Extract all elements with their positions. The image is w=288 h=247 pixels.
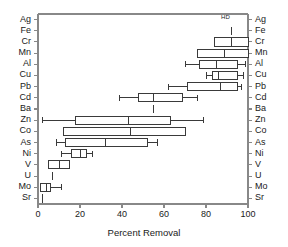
category-label-left-Pb: Pb	[0, 82, 31, 91]
category-label-right-As: As	[255, 138, 266, 147]
category-label-right-Cu: Cu	[255, 70, 267, 79]
box-Cu	[206, 71, 244, 79]
category-label-right-Pb: Pb	[255, 82, 266, 91]
category-label-left-Cu: Cu	[0, 70, 31, 79]
category-label-left-Mo: Mo	[0, 182, 31, 191]
category-label-right-U: U	[255, 171, 262, 180]
category-label-left-As: As	[0, 138, 31, 147]
category-label-right-Cr: Cr	[255, 37, 265, 46]
category-label-right-Sr: Sr	[255, 193, 264, 202]
category-label-right-V: V	[255, 160, 261, 169]
x-tick-label-40: 40	[107, 210, 137, 219]
box-Zn	[42, 116, 204, 124]
box-Mo	[40, 183, 61, 191]
category-label-right-Mo: Mo	[255, 182, 268, 191]
box-V	[49, 161, 70, 169]
hd-annotation: HD	[221, 14, 230, 20]
category-label-right-Fe: Fe	[255, 26, 266, 35]
box-Ni	[61, 150, 93, 158]
x-tick-label-100: 100	[233, 210, 263, 219]
category-label-left-Cr: Cr	[0, 37, 31, 46]
category-label-right-Mn: Mn	[255, 48, 268, 57]
category-label-left-Co: Co	[0, 126, 31, 135]
box-Al	[185, 60, 246, 68]
x-tick-label-0: 0	[23, 210, 53, 219]
category-label-left-Mn: Mn	[0, 48, 31, 57]
category-label-right-Cd: Cd	[255, 93, 267, 102]
category-label-right-Ni: Ni	[255, 149, 264, 158]
category-label-left-Zn: Zn	[0, 115, 31, 124]
box-plot-figure: AgFeCrMnAlCuPbCdBaZnCoAsNiVUMoSr AgFeCrM…	[0, 0, 288, 247]
category-label-right-Co: Co	[255, 126, 267, 135]
box-Co	[63, 127, 185, 135]
box-Cd	[120, 94, 198, 102]
category-label-left-V: V	[0, 160, 31, 169]
category-label-left-Sr: Sr	[0, 193, 31, 202]
box-Cr	[214, 38, 248, 46]
x-tick-label-80: 80	[191, 210, 221, 219]
category-label-left-Ba: Ba	[0, 104, 31, 113]
category-label-right-Ag: Ag	[255, 15, 266, 24]
box-Mn	[198, 49, 248, 57]
category-label-left-Fe: Fe	[0, 26, 31, 35]
category-label-left-Ni: Ni	[0, 149, 31, 158]
x-tick-label-20: 20	[65, 210, 95, 219]
box-As	[57, 138, 158, 146]
category-label-right-Ba: Ba	[255, 104, 266, 113]
box-whisker-series	[40, 27, 248, 203]
category-label-left-Al: Al	[0, 59, 31, 68]
category-label-left-Ag: Ag	[0, 15, 31, 24]
category-label-right-Zn: Zn	[255, 115, 266, 124]
category-label-left-U: U	[0, 171, 31, 180]
category-label-left-Cd: Cd	[0, 93, 31, 102]
category-label-right-Al: Al	[255, 59, 263, 68]
x-axis-title: Percent Removal	[0, 228, 288, 238]
box-Pb	[168, 83, 242, 91]
x-tick-label-60: 60	[149, 210, 179, 219]
